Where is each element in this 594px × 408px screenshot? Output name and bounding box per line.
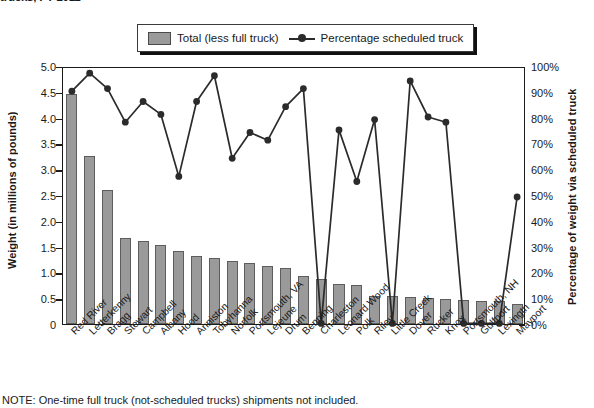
left-axis-title: Weight (in millions of pounds) (6, 100, 18, 280)
chart-legend: Total (less full truck) Percentage sched… (137, 24, 474, 52)
legend-item-bar: Total (less full truck) (148, 32, 279, 45)
line-marker (86, 70, 93, 77)
right-tick-label: 50% (531, 190, 571, 202)
left-tick-label: 5.0 (22, 61, 56, 73)
right-tick-label: 20% (531, 267, 571, 279)
right-tick-label: 30% (531, 242, 571, 254)
legend-bar-swatch-icon (148, 32, 171, 45)
line-marker (140, 98, 147, 105)
line-marker (175, 173, 182, 180)
legend-line-marker-icon (289, 33, 315, 44)
line-marker (211, 72, 218, 79)
line-marker (425, 114, 432, 121)
line-marker (336, 127, 343, 134)
line-marker (158, 111, 165, 118)
line-marker (122, 119, 129, 126)
legend-line-label: Percentage scheduled truck (321, 32, 464, 44)
right-tick-label: 100% (531, 61, 571, 73)
right-tick-label: 80% (531, 113, 571, 125)
left-tick-label: 1.0 (22, 267, 56, 279)
line-marker (300, 85, 307, 92)
line-marker (407, 78, 414, 85)
left-tick-label: 3.5 (22, 138, 56, 150)
right-tick-label: 10% (531, 293, 571, 305)
chart-note: NOTE: One-time full truck (not-scheduled… (2, 394, 358, 406)
left-tick-label: 3.0 (22, 164, 56, 176)
left-tick-label: 0 (22, 319, 56, 331)
legend-bar-label: Total (less full truck) (177, 32, 279, 44)
left-tick-label: 2.5 (22, 190, 56, 202)
legend-item-line: Percentage scheduled truck (289, 32, 464, 44)
line-marker (69, 88, 76, 95)
left-tick-label: 4.5 (22, 87, 56, 99)
line-marker (104, 85, 111, 92)
line-marker (514, 194, 521, 201)
line-marker (229, 155, 236, 162)
line-marker (193, 98, 200, 105)
chart-title: trucks, FY 2011 (0, 0, 300, 3)
line-marker (371, 116, 378, 123)
left-tick-label: 4.0 (22, 113, 56, 125)
left-tick-label: 2.0 (22, 216, 56, 228)
right-tick-label: 40% (531, 216, 571, 228)
right-tick-label: 90% (531, 87, 571, 99)
line-marker (264, 137, 271, 144)
left-tick-label: 0.5 (22, 293, 56, 305)
line-marker (247, 129, 254, 136)
line-marker (282, 103, 289, 110)
left-tick-label: 1.5 (22, 242, 56, 254)
right-tick-label: 60% (531, 164, 571, 176)
line-marker (353, 178, 360, 185)
line-marker (443, 119, 450, 126)
right-tick-label: 70% (531, 138, 571, 150)
